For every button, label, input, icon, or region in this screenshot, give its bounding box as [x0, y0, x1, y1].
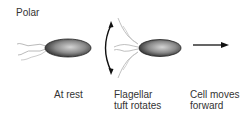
label-flagellar: Flagellar — [114, 89, 152, 100]
label-cell-moves: Cell moves — [190, 89, 239, 100]
flagellar-tuft — [114, 18, 138, 78]
cell-rotating — [139, 40, 181, 57]
forward-arrow-icon — [193, 42, 229, 48]
label-tuft-rotates: tuft rotates — [114, 100, 161, 111]
label-forward: forward — [190, 100, 223, 111]
rotation-arrow-icon — [106, 21, 114, 75]
label-at-rest: At rest — [54, 89, 83, 100]
cell-at-rest — [17, 39, 91, 60]
